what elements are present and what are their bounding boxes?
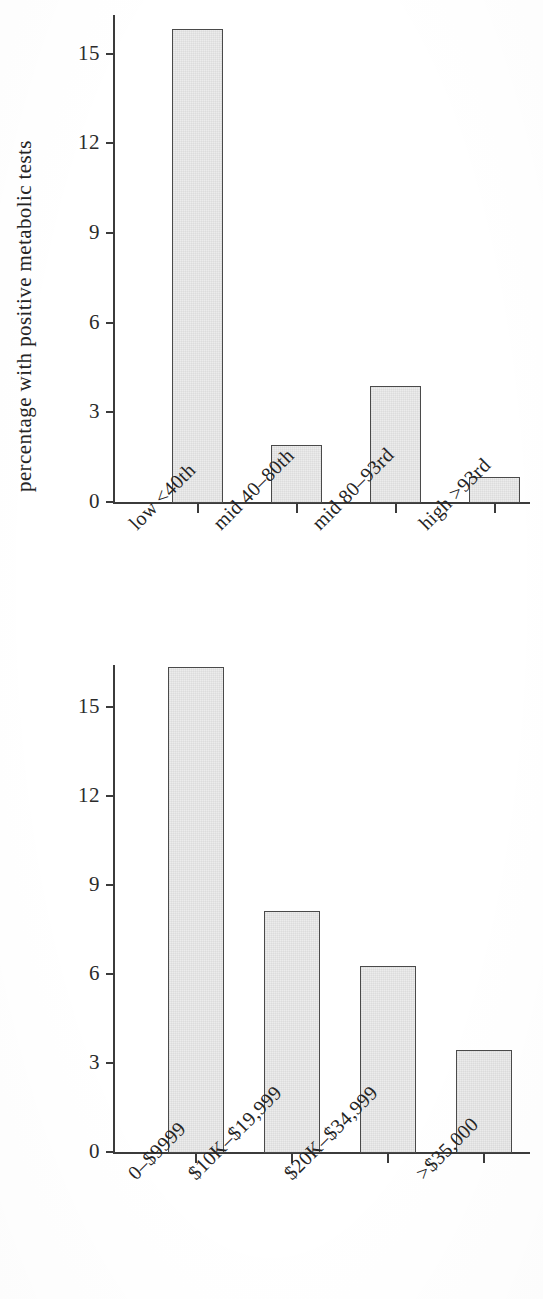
y-tick-label-9: 9 bbox=[56, 874, 100, 895]
y-axis-line bbox=[113, 15, 115, 504]
y-tick-3 bbox=[106, 411, 114, 413]
bar-10k-19999 bbox=[264, 911, 320, 1153]
y-tick-label-15: 15 bbox=[56, 696, 100, 717]
x-tick-2 bbox=[296, 504, 298, 513]
bar-20k-34999 bbox=[360, 966, 416, 1153]
bar-0-9999 bbox=[168, 667, 224, 1153]
figure-page: percentage with positive metabolic tests… bbox=[0, 0, 543, 1299]
y-tick-0 bbox=[106, 1151, 114, 1153]
y-tick-0 bbox=[106, 501, 114, 503]
y-tick-label-15: 15 bbox=[56, 43, 100, 64]
y-tick-label-0: 0 bbox=[56, 491, 100, 512]
y-tick-6 bbox=[106, 973, 114, 975]
y-axis-line bbox=[113, 665, 115, 1154]
y-tick-label-0: 0 bbox=[56, 1141, 100, 1162]
y-tick-label-9: 9 bbox=[56, 222, 100, 243]
y-tick-12 bbox=[106, 795, 114, 797]
bar-low-40th bbox=[172, 29, 223, 503]
y-tick-label-12: 12 bbox=[56, 132, 100, 153]
y-tick-label-3: 3 bbox=[56, 1052, 100, 1073]
chart-panel-metabolic-tests: percentage with positive metabolic tests… bbox=[0, 0, 543, 650]
y-tick-label-6: 6 bbox=[56, 963, 100, 984]
y-tick-12 bbox=[106, 142, 114, 144]
y-tick-15 bbox=[106, 53, 114, 55]
y-tick-6 bbox=[106, 322, 114, 324]
x-tick-3 bbox=[395, 504, 397, 513]
x-tick-3 bbox=[387, 1154, 389, 1163]
y-tick-label-12: 12 bbox=[56, 785, 100, 806]
y-tick-label-3: 3 bbox=[56, 401, 100, 422]
x-tick-4 bbox=[483, 1154, 485, 1163]
x-tick-4 bbox=[494, 504, 496, 513]
y-axis-title: percentage with positive metabolic tests bbox=[14, 140, 35, 492]
y-tick-3 bbox=[106, 1062, 114, 1064]
bar-mid-80-93rd bbox=[370, 386, 421, 503]
y-tick-9 bbox=[106, 232, 114, 234]
y-tick-label-6: 6 bbox=[56, 312, 100, 333]
x-tick-1 bbox=[197, 504, 199, 513]
y-tick-9 bbox=[106, 884, 114, 886]
chart-panel-drug-abuse-dependence: percentage drug abuse/dependence 0 3 6 9… bbox=[0, 620, 543, 1299]
y-tick-15 bbox=[106, 706, 114, 708]
